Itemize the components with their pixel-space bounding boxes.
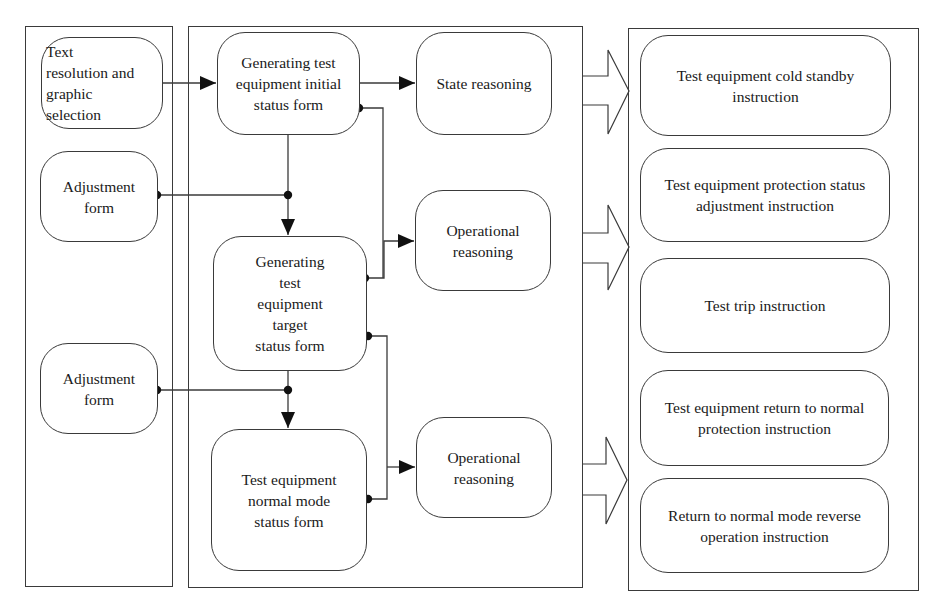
node-label: Return to normal mode reverse operation … <box>668 505 861 547</box>
node-normal-mode-status-form: Test equipment normal mode status form <box>211 429 367 571</box>
node-initial-status-form: Generating test equipment initial status… <box>217 32 360 135</box>
node-reverse-operation-instruction: Return to normal mode reverse operation … <box>640 478 889 573</box>
node-label: Adjustment form <box>63 368 135 410</box>
node-label: Operational reasoning <box>446 220 519 262</box>
node-label: Adjustment form <box>63 176 135 218</box>
node-adjustment-form-1: Adjustment form <box>40 151 158 242</box>
block-arrow-icon <box>583 437 627 524</box>
node-label: State reasoning <box>436 73 531 94</box>
node-label: Test trip instruction <box>704 295 825 316</box>
node-operational-reasoning-1: Operational reasoning <box>415 190 551 291</box>
node-protection-adjustment-instruction: Test equipment protection status adjustm… <box>640 148 890 242</box>
block-arrow-icon <box>583 50 629 134</box>
block-arrow-icon <box>583 205 629 290</box>
node-adjustment-form-2: Adjustment form <box>40 343 158 434</box>
node-label: Generating test equipment initial status… <box>236 52 341 115</box>
node-cold-standby-instruction: Test equipment cold standby instruction <box>640 35 891 136</box>
node-label: Text resolution and graphic selection <box>46 41 134 125</box>
node-label: Test equipment cold standby instruction <box>677 65 855 107</box>
node-text-resolution: Text resolution and graphic selection <box>41 37 163 129</box>
node-label: Test equipment protection status adjustm… <box>665 174 866 216</box>
node-label: Operational reasoning <box>447 447 520 489</box>
node-target-status-form: Generating test equipment target status … <box>213 236 367 371</box>
node-state-reasoning: State reasoning <box>416 32 552 135</box>
node-label: Test equipment normal mode status form <box>242 469 337 532</box>
flow-diagram: Text resolution and graphic selection Ad… <box>0 0 944 616</box>
node-label: Test equipment return to normal protecti… <box>665 397 865 439</box>
node-label: Generating test equipment target status … <box>255 251 324 356</box>
node-return-protection-instruction: Test equipment return to normal protecti… <box>640 370 889 466</box>
node-operational-reasoning-2: Operational reasoning <box>416 417 552 518</box>
node-trip-instruction: Test trip instruction <box>640 258 890 353</box>
